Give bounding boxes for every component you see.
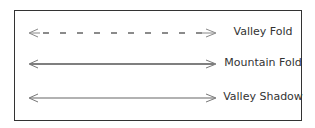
mountain-fold-label: Mountain Fold — [224, 56, 301, 69]
valley-shadow-label: Valley Shadow — [223, 90, 303, 103]
valley-fold-label: Valley Fold — [233, 25, 292, 38]
mountain-fold-arrow — [29, 60, 216, 68]
valley-fold-arrow — [29, 29, 216, 37]
valley-shadow-arrow — [29, 94, 216, 102]
